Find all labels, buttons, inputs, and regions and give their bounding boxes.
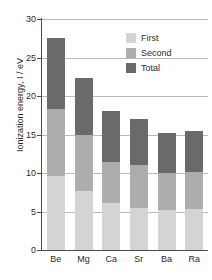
legend-item: Total [126, 62, 172, 73]
bars-container [42, 19, 208, 250]
y-axis-title: Ionization energy, I / eV [15, 35, 25, 175]
legend-swatch [126, 48, 136, 58]
legend-label: First [141, 33, 159, 43]
bar-segment-first [158, 210, 176, 250]
bar-segment-first [102, 203, 120, 250]
y-tick-mark [37, 250, 42, 251]
legend-swatch [126, 33, 136, 43]
ionization-energy-bar-chart: 051015202530 Ionization energy, I / eV B… [0, 0, 212, 280]
bar-group [102, 19, 120, 250]
legend-label: Total [141, 63, 160, 73]
x-tick-label: Ra [177, 254, 211, 264]
bar-segment-first [75, 191, 93, 250]
y-tick-label: 5 [6, 208, 36, 217]
x-axis-line [41, 250, 208, 251]
y-tick-label: 30 [6, 15, 36, 24]
legend-swatch [126, 63, 136, 73]
bar-group [185, 19, 203, 250]
bar-segment-first [47, 176, 65, 250]
bar-segment-first [185, 209, 203, 250]
y-tick-label: 0 [6, 246, 36, 255]
legend-label: Second [141, 48, 172, 58]
legend-item: Second [126, 47, 172, 58]
legend: FirstSecondTotal [126, 32, 172, 77]
legend-item: First [126, 32, 172, 43]
bar-segment-first [130, 208, 148, 250]
bar-group [47, 19, 65, 250]
bar-group [75, 19, 93, 250]
